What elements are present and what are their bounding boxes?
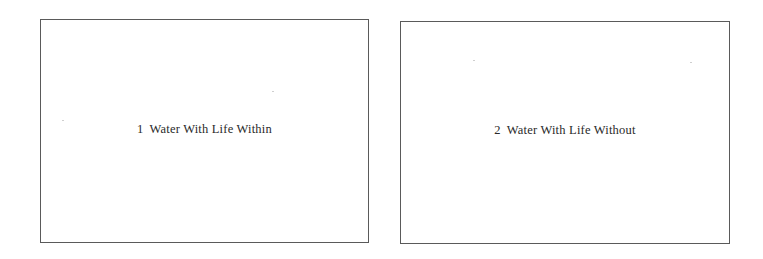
figure-caption-1: 1Water With Life Within: [137, 122, 272, 137]
scan-speck: [272, 91, 274, 92]
figure-frame-2: 2Water With Life Without: [400, 21, 730, 244]
scan-speck: [473, 60, 475, 61]
scan-speck: [690, 62, 692, 63]
figure-frame-1: 1Water With Life Within: [40, 19, 369, 243]
figure-title-2: Water With Life Without: [507, 123, 636, 137]
figure-title-1: Water With Life Within: [150, 122, 272, 136]
figure-caption-2: 2Water With Life Without: [494, 123, 635, 138]
scan-speck: [62, 120, 64, 121]
figure-number-1: 1: [137, 122, 143, 136]
figure-number-2: 2: [494, 123, 500, 137]
